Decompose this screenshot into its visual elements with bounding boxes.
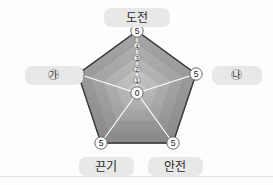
vertex-value-bottom-right: 5 [171,138,176,148]
vertex-value-top: 5 [135,26,140,36]
radar-chart-svg: 5 5 5 5 5 0 4 3 2 1 [0,0,273,185]
scale-tick-1: 1 [135,77,139,84]
axis-label-right: ㉯ [212,66,262,85]
axis-label-bottom-right: 안전 [148,157,203,176]
vertex-value-bottom-left: 5 [99,138,104,148]
bottom-divider [0,176,273,177]
scale-tick-3: 3 [135,55,139,62]
radar-chart-figure: 5 5 5 5 5 0 4 3 2 1 도전 ㉮ ㉯ 끈기 안전 [0,0,273,185]
axis-label-bottom-left: 끈기 [79,157,134,176]
vertex-value-right: 5 [194,69,199,79]
center-value: 0 [135,88,140,98]
axis-label-left: ㉮ [25,66,83,85]
scale-tick-4: 4 [135,43,139,50]
axis-label-top: 도전 [104,8,170,27]
scale-tick-2: 2 [135,66,139,73]
